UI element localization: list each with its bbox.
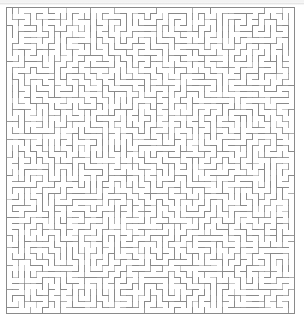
maze-wall-layer <box>7 8 295 314</box>
maze-page <box>0 0 304 321</box>
maze-figure <box>0 0 304 321</box>
maze-container <box>0 0 304 321</box>
